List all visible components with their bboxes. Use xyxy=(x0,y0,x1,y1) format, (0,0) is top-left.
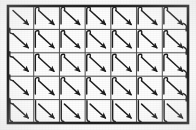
grid-arrow-diagram xyxy=(0,0,196,130)
figure-container xyxy=(0,0,196,130)
